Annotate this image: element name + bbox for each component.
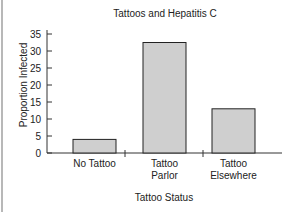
x-tick-label: No Tattoo: [73, 158, 116, 169]
left-border: [1, 0, 3, 212]
chart-title: Tattoos and Hepatitis C: [113, 8, 216, 19]
bar: [73, 139, 116, 153]
y-axis-label: Proportion Infected: [18, 43, 29, 128]
bars: [73, 43, 255, 154]
x-tick-labels: No TattooTattooParlorTattooElsewhere: [73, 158, 257, 181]
y-tick-label: 30: [30, 46, 42, 57]
x-tick-label: Tattoo: [220, 158, 248, 169]
bar-chart: Tattoos and Hepatitis C Proportion Infec…: [0, 0, 298, 212]
x-tick-label: Elsewhere: [210, 170, 257, 181]
x-tick-label: Parlor: [151, 170, 178, 181]
chart-frame: Tattoos and Hepatitis C Proportion Infec…: [0, 0, 298, 212]
y-tick-label: 10: [30, 114, 42, 125]
bar: [143, 43, 186, 154]
y-tick-label: 20: [30, 80, 42, 91]
x-axis-label: Tattoo Status: [135, 192, 193, 203]
x-tick-label: Tattoo: [151, 158, 179, 169]
y-tick-label: 35: [30, 29, 42, 40]
y-tick-label: 25: [30, 63, 42, 74]
y-tick-label: 5: [35, 131, 41, 142]
bar: [212, 109, 255, 153]
y-tick-label: 15: [30, 97, 42, 108]
y-tick-label: 0: [35, 148, 41, 159]
